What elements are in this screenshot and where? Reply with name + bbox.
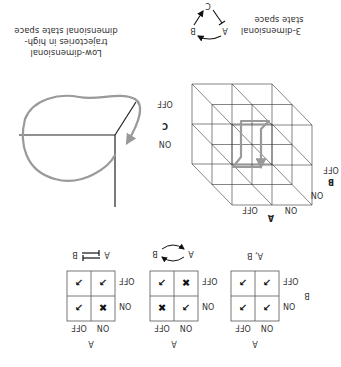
top-axis-label: A: [88, 339, 94, 348]
allowed-icon: ↗: [263, 277, 271, 288]
cube-caption-line2: state space: [254, 15, 303, 25]
allowed-icon: ↗: [99, 277, 107, 288]
col-label-on: ON: [261, 323, 273, 332]
allowed-icon: ↗: [75, 302, 83, 313]
c-tick-off: OFF: [157, 99, 173, 108]
b-to-c-arrow-icon: [194, 11, 203, 25]
forbidden-icon: ✖: [182, 277, 190, 288]
side-axis-label: B: [304, 291, 310, 300]
b-tick-on: ON: [311, 190, 323, 199]
a-tick-off: OFF: [242, 205, 258, 214]
trajectory-caption-line2: trajectories in high-: [24, 37, 107, 47]
row-label-off: OFF: [202, 276, 218, 285]
state-space-cube: A ON OFF B ON OFF C ON OFF 3-dimensional…: [157, 1, 339, 222]
row-label-on: ON: [283, 301, 295, 310]
allowed-icon: ↗: [239, 302, 247, 313]
col-label-on: ON: [97, 323, 109, 332]
axis-b-label: B: [328, 177, 334, 186]
trajectory-loop: [23, 96, 140, 181]
network-node-c: C: [205, 1, 211, 10]
cycle-arrow-icon: [162, 245, 184, 249]
rotated-figure: A ON OFF B ON OFF ↗ ↗ ↗ ↗ A, B A ON OFF …: [14, 1, 338, 348]
allowed-icon: ↗: [182, 302, 190, 313]
trajectory-caption-line1: Low-dimensional: [30, 48, 101, 58]
a-to-b-arrow-icon: [198, 36, 221, 39]
cycle-arrow-icon: [162, 257, 184, 261]
truth-table-independent: A ON OFF B ON OFF ↗ ↗ ↗ ↗ A, B: [231, 251, 310, 348]
forbidden-icon: ✖: [99, 302, 107, 313]
c-tick-on: ON: [159, 139, 171, 148]
caption-node-b: B: [152, 249, 158, 258]
col-label-on: ON: [180, 323, 192, 332]
col-label-off: OFF: [154, 323, 170, 332]
caption-node-b: B: [72, 250, 78, 259]
abc-network-diagram: A B C: [190, 1, 227, 39]
axis-c-label: C: [162, 121, 168, 130]
b-tick-off: OFF: [323, 165, 339, 174]
inhibition-icon: [82, 250, 100, 261]
caption-node-a: A: [104, 250, 110, 259]
network-node-a: A: [222, 26, 228, 35]
cube-caption-line1: 3-dimensional: [241, 26, 301, 36]
cube-trajectory: [233, 121, 269, 167]
row-label-on: ON: [202, 301, 214, 310]
allowed-icon: ↗: [75, 277, 83, 288]
figure-canvas: A ON OFF B ON OFF ↗ ↗ ↗ ↗ A, B A ON OFF …: [0, 0, 341, 367]
network-node-b: B: [190, 26, 196, 35]
table-caption: A, B: [247, 251, 263, 260]
trajectory-panel: Low-dimensional trajectories in high- di…: [14, 26, 140, 207]
forbidden-icon: ✖: [158, 302, 166, 313]
allowed-icon: ↗: [263, 302, 271, 313]
allowed-icon: ↗: [158, 277, 166, 288]
col-label-off: OFF: [235, 323, 251, 332]
trajectory-caption-line3: dimensional state space: [14, 26, 117, 36]
axis-a-label: A: [267, 213, 274, 222]
row-label-off: OFF: [119, 276, 135, 285]
top-axis-label: A: [252, 339, 258, 348]
truth-table-mutual-inhibition: A ON OFF ON OFF ✖ ↗ ↗ ↗ A B: [67, 250, 135, 348]
caption-node-a: A: [188, 249, 194, 258]
top-axis-label: A: [171, 339, 177, 348]
row-label-on: ON: [119, 301, 131, 310]
truth-table-cycle: A ON OFF ON OFF ↗ ✖ ✖ ↗ A B: [150, 245, 218, 348]
row-label-off: OFF: [283, 276, 299, 285]
a-tick-on: ON: [285, 205, 297, 214]
allowed-icon: ↗: [239, 277, 247, 288]
c-inhibits-a-icon: [213, 10, 222, 23]
col-label-off: OFF: [71, 323, 87, 332]
